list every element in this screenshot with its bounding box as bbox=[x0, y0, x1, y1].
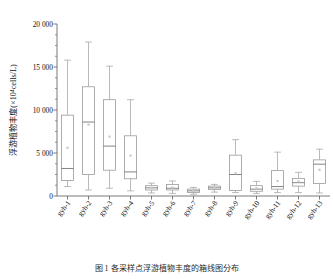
boxplot-box-gyh-12 bbox=[292, 172, 304, 192]
box-iqr bbox=[313, 160, 325, 184]
x-axis-tick-label-gyh-7: gyh-7 bbox=[181, 198, 199, 217]
boxplot-box-gyh-9 bbox=[229, 140, 241, 193]
x-axis-tick-label-gyh-8: gyh-8 bbox=[202, 198, 220, 217]
boxplot-box-gyh-3 bbox=[103, 66, 115, 188]
boxplot-box-gyh-6 bbox=[166, 181, 178, 193]
x-axis-tick-label-gyh-4: gyh-4 bbox=[118, 198, 136, 217]
boxplot-box-gyh-10 bbox=[250, 181, 262, 193]
box-iqr bbox=[82, 87, 94, 175]
box-iqr bbox=[103, 100, 115, 171]
x-axis-tick-label-gyh-12: gyh-12 bbox=[283, 198, 303, 220]
x-axis-tick-label-gyh-2: gyh-2 bbox=[76, 198, 94, 217]
y-axis-tick-label: 0 bbox=[49, 192, 53, 201]
boxplot-box-gyh-8 bbox=[208, 184, 220, 192]
x-axis-tick-label-gyh-11: gyh-11 bbox=[263, 198, 283, 220]
boxplot-box-gyh-7 bbox=[187, 187, 199, 194]
mean-marker bbox=[129, 154, 131, 156]
mean-marker bbox=[213, 187, 215, 189]
x-axis-tick-label-gyh-10: gyh-10 bbox=[241, 198, 261, 220]
boxplot-box-gyh-4 bbox=[124, 100, 136, 191]
mean-marker bbox=[318, 169, 320, 171]
y-axis-ticks bbox=[54, 24, 58, 196]
boxplot-box-gyh-11 bbox=[271, 152, 283, 192]
x-axis-tick-label-gyh-9: gyh-9 bbox=[223, 198, 241, 217]
mean-marker bbox=[171, 186, 173, 188]
y-axis-title: 浮游植物丰度(×10⁴cells/L) bbox=[8, 64, 18, 156]
x-axis-tick-label-gyh-5: gyh-5 bbox=[139, 198, 157, 217]
mean-marker bbox=[150, 187, 152, 189]
boxplot-box-gyh-2 bbox=[82, 42, 94, 190]
figure-caption: 图 1 各采样点浮游植物丰度的箱线图分布 bbox=[0, 262, 333, 279]
boxplot-box-gyh-13 bbox=[313, 149, 325, 193]
mean-marker bbox=[234, 172, 236, 174]
boxplot-chart: 浮游植物丰度(×10⁴cells/L) 05 00010 00015 00020… bbox=[0, 0, 333, 279]
x-axis-tick-label-gyh-1: gyh-1 bbox=[55, 198, 73, 217]
mean-marker bbox=[276, 180, 278, 182]
y-axis-tick-labels: 05 00010 00015 00020 000 bbox=[33, 20, 54, 201]
boxplot-box-gyh-1 bbox=[61, 60, 73, 186]
mean-marker bbox=[255, 187, 257, 189]
figure-caption-text: 图 1 各采样点浮游植物丰度的箱线图分布 bbox=[95, 264, 239, 273]
y-axis-tick-label: 15 000 bbox=[33, 63, 54, 72]
box-iqr bbox=[124, 136, 136, 179]
y-axis-tick-label: 20 000 bbox=[33, 20, 54, 29]
x-axis-ticks bbox=[68, 196, 320, 200]
x-axis-tick-label-gyh-6: gyh-6 bbox=[160, 198, 178, 217]
x-axis-tick-labels: gyh-1gyh-2gyh-3gyh-4gyh-5gyh-6gyh-7gyh-8… bbox=[55, 198, 325, 220]
x-axis-tick-label-gyh-13: gyh-13 bbox=[304, 198, 324, 220]
boxplot-box-gyh-5 bbox=[145, 183, 157, 193]
mean-marker bbox=[87, 124, 89, 126]
y-axis-tick-label: 5 000 bbox=[36, 149, 53, 158]
mean-marker bbox=[192, 190, 194, 192]
mean-marker bbox=[108, 136, 110, 138]
x-axis-tick-label-gyh-3: gyh-3 bbox=[97, 198, 115, 217]
figure-root: 浮游植物丰度(×10⁴cells/L) 05 00010 00015 00020… bbox=[0, 0, 333, 279]
mean-marker bbox=[297, 180, 299, 182]
boxplot-series bbox=[61, 42, 325, 194]
mean-marker bbox=[66, 147, 68, 149]
y-axis-tick-label: 10 000 bbox=[33, 106, 54, 115]
